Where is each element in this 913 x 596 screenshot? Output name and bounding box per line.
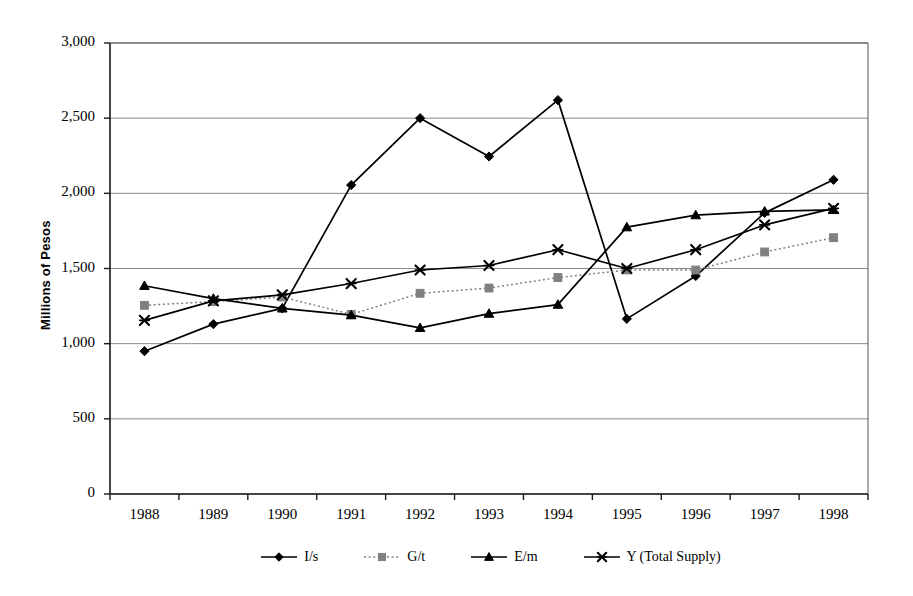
data-point-marker-square (379, 553, 386, 560)
legend-marker-square-icon (362, 550, 402, 564)
data-point-marker-diamond (275, 553, 283, 561)
legend-entry[interactable]: G/t (362, 549, 425, 565)
legend-marker-x-icon (582, 550, 622, 564)
x-tick-label: 1998 (794, 506, 874, 523)
chart-legend: I/sG/tE/mY (Total Supply) (110, 549, 870, 565)
legend-label: Y (Total Supply) (627, 549, 721, 565)
legend-entry[interactable]: E/m (469, 549, 537, 565)
legend-entry[interactable]: I/s (259, 549, 318, 565)
chart-figure: Millions of Pesos 05001,0001,5002,0002,5… (0, 0, 913, 596)
legend-marker-diamond-icon (259, 550, 299, 564)
legend-marker-triangle-icon (469, 550, 509, 564)
legend-entry[interactable]: Y (Total Supply) (582, 549, 721, 565)
x-axis-tick-labels: 1988198919901991199219931994199519961997… (0, 0, 913, 596)
legend-label: E/m (514, 549, 537, 565)
data-point-marker-x (597, 553, 606, 561)
legend-label: I/s (304, 549, 318, 565)
legend-label: G/t (407, 549, 425, 565)
